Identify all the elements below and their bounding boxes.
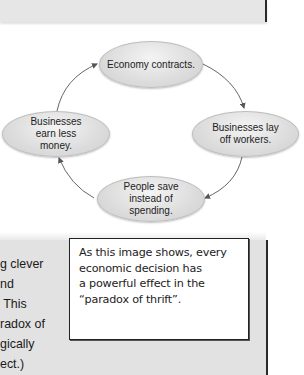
callout-line: economic decision has (79, 261, 248, 277)
body-line: nd (0, 274, 45, 294)
body-line: ect.) (0, 354, 45, 374)
node-people-save: People save instead of spending. (97, 176, 205, 222)
body-line: gically (0, 334, 45, 354)
arrow-right-to-bottom (205, 157, 242, 198)
body-text: g clever nd This radox of gically ect.) (0, 254, 45, 374)
callout-line: As this image shows, every (79, 245, 248, 261)
node-label: Businesses lay off workers. (209, 122, 282, 146)
node-businesses-lay-off: Businesses lay off workers. (192, 111, 299, 157)
body-line: This (0, 294, 45, 314)
callout-line: a powerful effect in the (79, 276, 248, 292)
node-businesses-earn-less: Businesses earn less money. (2, 111, 110, 157)
arrow-left-to-top (57, 64, 97, 111)
callout-line: “paradox of thrift”. (79, 292, 248, 308)
node-label: Businesses earn less money. (21, 116, 91, 152)
body-line: radox of (0, 314, 45, 334)
body-line: g clever (0, 254, 45, 274)
callout-box: As this image shows, every economic deci… (69, 238, 249, 340)
arrow-top-to-right (203, 64, 244, 108)
arrow-bottom-to-left (59, 158, 94, 198)
paradox-of-thrift-diagram: Economy contracts. Businesses lay off wo… (0, 0, 304, 240)
node-economy-contracts: Economy contracts. (99, 41, 203, 88)
node-label: People save instead of spending. (116, 181, 186, 217)
node-label: Economy contracts. (107, 59, 195, 71)
